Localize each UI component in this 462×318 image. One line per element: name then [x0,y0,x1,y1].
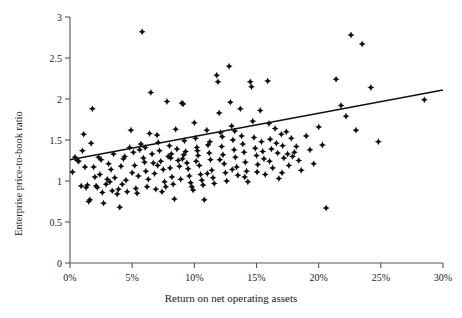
data-point [275,150,281,156]
plot-area [0,0,462,318]
data-point [260,148,266,154]
data-point [242,174,248,180]
data-point [114,191,120,197]
data-point [210,175,216,181]
x-axis-tick-label: 0% [63,272,76,283]
data-point [154,132,160,138]
data-point [261,156,267,162]
data-point [272,125,278,131]
data-point [178,176,184,182]
data-point [237,106,243,112]
data-point [216,110,222,116]
x-axis-tick-label: 5% [125,272,138,283]
data-point [242,159,248,165]
data-point [217,157,223,163]
x-axis-tick-label: 25% [372,272,390,283]
data-point [221,161,227,167]
data-point [99,189,105,195]
data-point [262,171,268,177]
data-point [211,180,217,186]
data-point [251,134,257,140]
data-point [293,143,299,149]
y-axis-tick-label: 1 [28,176,62,187]
data-point [201,197,207,203]
data-point [193,158,199,164]
data-point [232,154,238,160]
data-point [243,168,249,174]
data-point [248,84,254,90]
data-point [255,162,261,168]
data-point [130,149,136,155]
data-point [184,160,190,166]
data-point [82,164,88,170]
data-point [146,130,152,136]
data-point [115,186,121,192]
data-point [159,189,165,195]
data-point [109,188,115,194]
data-point [173,126,179,132]
data-point [129,170,135,176]
data-point [316,124,322,130]
data-point [207,157,213,163]
data-point [197,171,203,177]
data-point [267,136,273,142]
data-point [204,127,210,133]
y-axis-tick-label: 0.5 [28,217,62,228]
data-point [123,177,129,183]
data-point [132,162,138,168]
data-point [268,146,274,152]
data-point [303,133,309,139]
data-point [220,152,226,158]
data-point [226,63,232,69]
data-point [148,89,154,95]
y-axis-title: Enterprise price-to-book ratio [13,111,24,236]
data-point [222,170,228,176]
data-point [375,139,381,145]
data-point [166,143,172,149]
data-point [118,163,124,169]
data-point [196,162,202,168]
data-point [338,102,344,108]
y-axis-tick-label: 2.5 [28,53,62,64]
data-point [105,161,111,167]
data-point [112,175,118,181]
data-point [158,158,164,164]
data-point [174,146,180,152]
data-point [280,143,286,149]
data-point [265,78,271,84]
data-point [257,107,263,113]
data-point [160,166,166,172]
data-point [117,204,123,210]
data-point [153,186,159,192]
data-point [253,152,259,158]
data-point [307,147,313,153]
data-point [276,175,282,181]
data-point [241,149,247,155]
data-point [167,165,173,171]
data-point [238,133,244,139]
data-point [149,151,155,157]
data-point [250,118,256,124]
data-point [281,155,287,161]
data-point [175,157,181,163]
data-point [343,113,349,119]
data-point [156,148,162,154]
data-point [279,170,285,176]
data-point [206,150,212,156]
data-point [176,163,182,169]
data-point [81,131,87,137]
data-point [288,135,294,141]
data-point [204,171,210,177]
data-point [359,41,365,47]
data-point [230,137,236,143]
data-point [78,183,84,189]
data-point [209,167,215,173]
data-point [100,200,106,206]
data-point [164,98,170,104]
data-point [319,142,325,148]
data-point [229,123,235,129]
data-point [88,140,94,146]
data-point [124,189,130,195]
data-point [254,169,260,175]
data-point [245,179,251,185]
